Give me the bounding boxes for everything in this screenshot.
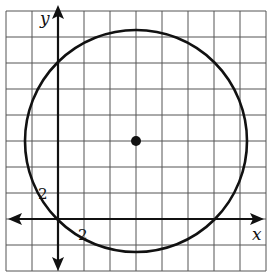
coordinate-plane: y x 2 2 (0, 0, 269, 276)
x-axis-label: x (252, 224, 262, 244)
y-tick-label: 2 (38, 185, 48, 203)
x-tick-label: 2 (78, 226, 88, 244)
y-axis-label: y (39, 8, 50, 28)
center-point (131, 136, 141, 146)
